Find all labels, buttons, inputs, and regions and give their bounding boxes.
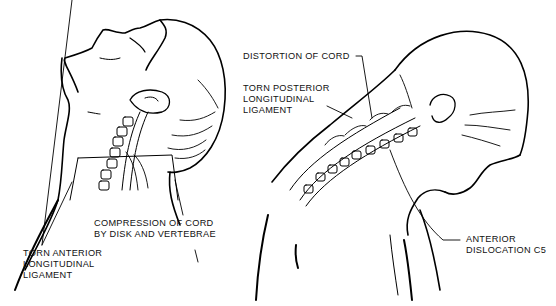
label-line: LIGAMENT	[243, 105, 330, 116]
label-torn-anterior-ligament: TORN ANTERIOR LONGITUDINAL LIGAMENT	[23, 248, 102, 281]
left-figure-spine	[70, 112, 178, 200]
label-line: COMPRESSION OF CORD	[94, 218, 216, 229]
label-line: TORN ANTERIOR	[23, 248, 102, 259]
label-line: BY DISK AND VERTEBRAE	[94, 229, 216, 240]
label-line: ANTERIOR	[466, 234, 546, 245]
right-torso-edge-right	[404, 240, 412, 300]
label-line: LONGITUDINAL	[23, 259, 102, 270]
label-anterior-dislocation-c5: ANTERIOR DISLOCATION C5	[466, 234, 546, 256]
label-line: DISTORTION OF CORD	[243, 51, 350, 62]
right-leader-lines	[327, 56, 460, 240]
left-shoulder-edge	[256, 215, 268, 300]
label-line: DISLOCATION C5	[466, 245, 546, 256]
right-figure-spine	[290, 105, 420, 206]
label-torn-posterior-ligament: TORN POSTERIOR LONGITUDINAL LIGAMENT	[243, 83, 330, 116]
label-compression-of-cord: COMPRESSION OF CORD BY DISK AND VERTEBRA…	[94, 218, 216, 240]
right-torso-edge-left	[296, 245, 298, 268]
label-distortion-of-cord: DISTORTION OF CORD	[243, 51, 350, 62]
label-line: TORN POSTERIOR	[243, 83, 330, 94]
label-line: LIGAMENT	[23, 270, 102, 281]
label-line: LONGITUDINAL	[243, 94, 330, 105]
